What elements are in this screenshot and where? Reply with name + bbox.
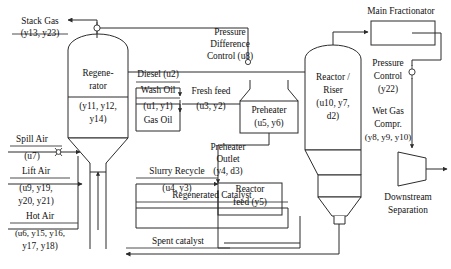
pdc-label-line3: Control (u8) — [207, 51, 253, 62]
label-stack-gas: Stack Gas (y13, y23) — [21, 16, 60, 39]
spill-air-label-line2: (u7) — [24, 151, 40, 162]
pressure-control-label-line1: Pressure — [372, 58, 404, 68]
fcc-process-flow-diagram: Stack Gas (y13, y23) Pressure Difference… — [0, 0, 451, 269]
spill-air-label-line1: Spill Air — [16, 134, 49, 144]
label-spent-catalyst: Spent catalyst — [152, 236, 204, 246]
label-fresh-feed: Fresh feed (u3, y2) — [192, 86, 231, 112]
spill-air-valve — [55, 148, 62, 156]
reactor-riser-label-line4: d2) — [327, 111, 339, 122]
regenerator-label-line3: (y11, y12, — [79, 101, 117, 112]
preheater-outlet-label-line3: (y4, d3) — [213, 166, 242, 177]
pressure-control-label-line3: (y22) — [378, 84, 398, 95]
label-preheater-outlet: Preheater Outlet (y4, d3) — [210, 142, 246, 177]
pressure-control-label-line2: Control — [374, 71, 403, 81]
label-wet-gas-compressor: Wet Gas Compr. (y8, y9, y10) — [365, 106, 412, 142]
spent-catalyst-label: Spent catalyst — [152, 236, 204, 246]
wet-gas-label-line1: Wet Gas — [372, 106, 404, 116]
slurry-recycle-label-line1: Slurry Recycle — [149, 166, 205, 176]
main-fractionator-label: Main Fractionator — [367, 6, 435, 16]
stack-gas-label-line1: Stack Gas — [21, 16, 59, 26]
hot-air-label-line2: (u6, y15, y16, — [15, 228, 65, 238]
fresh-feed-label-line1: Fresh feed — [192, 86, 231, 96]
regenerator-vessel — [68, 28, 128, 172]
lift-air-label-line1: Lift Air — [22, 166, 51, 176]
label-downstream-separation: Downstream Separation — [384, 192, 432, 215]
downstream-label-line1: Downstream — [384, 192, 432, 202]
fresh-feed-label-line2: (u3, y2) — [196, 101, 225, 112]
label-hot-air: Hot Air (u6, y15, y16, y17, y18) — [15, 211, 65, 252]
label-diesel: Diesel (u2) — [137, 69, 179, 80]
pdc-label-line1: Pressure — [214, 27, 246, 37]
label-lift-air: Lift Air (u9, y19, y20, y21) — [18, 166, 54, 207]
preheater-outlet-label-line2: Outlet — [216, 154, 240, 164]
preheater-label-line1: Preheater — [251, 105, 287, 115]
wet-gas-label-line3: (y8, y9, y10) — [365, 132, 412, 142]
regenerator-label-line1: Regene- — [83, 68, 114, 78]
reactor-overhead-line — [333, 32, 368, 45]
diesel-label: Diesel (u2) — [137, 69, 179, 80]
label-spill-air: Spill Air (u7) — [16, 134, 49, 162]
regenerator-label-line4: y14) — [89, 114, 106, 125]
hot-air-label-line1: Hot Air — [26, 211, 55, 221]
wet-gas-compressor-unit — [398, 152, 447, 186]
label-pressure-control: Pressure Control (y22) — [372, 58, 404, 95]
wet-gas-label-line2: Compr. — [374, 119, 402, 129]
label-wash-oil: Wash Oil (u1, y1) Gas Oil — [141, 85, 176, 125]
label-main-fractionator: Main Fractionator — [367, 6, 435, 16]
fractionator-overhead-line — [412, 33, 441, 148]
lift-air-label-line3: y20, y21) — [18, 196, 54, 207]
wash-oil-label-line1: Wash Oil — [141, 85, 176, 95]
preheater-label-line2: (u5, y6) — [254, 118, 283, 129]
stack-gas-label-line2: (y13, y23) — [21, 28, 60, 39]
downstream-label-line2: Separation — [388, 205, 428, 215]
reactor-riser-label-line2: Riser — [323, 85, 344, 95]
reactor-feed-label-line2: feed (y5) — [233, 197, 267, 208]
pressure-control-valve — [409, 65, 415, 79]
reactor-riser-label-line1: Reactor / — [316, 72, 350, 82]
pdc-label-line2: Difference — [210, 39, 250, 49]
reactor-feed-label-line1: Reactor — [236, 184, 266, 194]
hot-air-label-line3: y17, y18) — [22, 241, 58, 252]
regenerator-label-line2: rator — [89, 81, 107, 91]
wash-oil-label-line2: (u1, y1) — [143, 101, 172, 112]
lift-air-label-line2: (u9, y19, — [19, 183, 52, 194]
reactor-riser-label-line3: (u10, y7, — [316, 98, 349, 109]
stack-gas-valve — [94, 22, 100, 34]
wash-oil-label-line3: Gas Oil — [144, 115, 173, 125]
label-pressure-difference-control: Pressure Difference Control (u8) — [207, 27, 253, 62]
flowsheet-canvas: Stack Gas (y13, y23) Pressure Difference… — [0, 0, 451, 269]
preheater-outlet-label-line1: Preheater — [210, 142, 246, 152]
stack-gas-line — [68, 20, 97, 28]
